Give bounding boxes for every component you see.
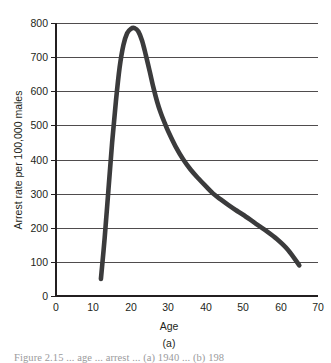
- y-axis-title: Arrest rate per 100,000 males: [12, 91, 24, 230]
- y-tick-label-700: 700: [30, 51, 48, 63]
- y-tick-label-100: 100: [30, 256, 48, 268]
- y-tick-label-500: 500: [30, 119, 48, 131]
- y-tick-label-0: 0: [42, 290, 48, 302]
- figure-caption-strip: Figure 2.15 ... age ... arrest ... (a) 1…: [0, 352, 331, 363]
- x-tick-label-40: 40: [200, 301, 212, 313]
- x-tick-label-20: 20: [125, 301, 137, 313]
- x-tick-label-10: 10: [87, 301, 99, 313]
- gridlines: [56, 23, 318, 262]
- subfigure-label: (a): [163, 337, 176, 349]
- arrest-rate-curve: [101, 28, 299, 279]
- y-tick-label-300: 300: [30, 188, 48, 200]
- x-tick-label-30: 30: [162, 301, 174, 313]
- age-crime-line-chart: 800 700 600 500 400 300 200 100 0 0 10 2…: [0, 0, 331, 352]
- x-tick-label-60: 60: [275, 301, 287, 313]
- y-tick-label-200: 200: [30, 222, 48, 234]
- y-tick-label-400: 400: [30, 154, 48, 166]
- y-axis-tickmarks: [51, 23, 56, 296]
- x-axis-tick-labels: 0 10 20 30 40 50 60 70: [53, 301, 324, 313]
- axes: [56, 23, 318, 296]
- x-tick-label-50: 50: [237, 301, 249, 313]
- x-tick-label-0: 0: [53, 301, 59, 313]
- y-axis-tick-labels: 800 700 600 500 400 300 200 100 0: [30, 17, 48, 302]
- figure-caption-text: Figure 2.15 ... age ... arrest ... (a) 1…: [14, 352, 224, 363]
- x-axis-title: Age: [160, 320, 179, 332]
- y-tick-label-600: 600: [30, 85, 48, 97]
- y-tick-label-800: 800: [30, 17, 48, 29]
- x-tick-label-70: 70: [312, 301, 324, 313]
- figure-container: 800 700 600 500 400 300 200 100 0 0 10 2…: [0, 0, 331, 363]
